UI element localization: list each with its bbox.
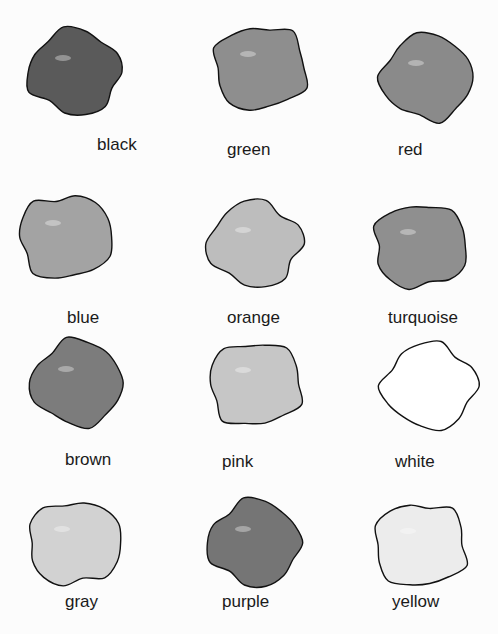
blob-highlight (55, 55, 71, 61)
paint-blob-brown (29, 337, 123, 429)
swatch-red (377, 32, 473, 123)
blob-highlight (410, 369, 426, 375)
blob-highlight (240, 51, 256, 57)
paint-blob-gray (30, 503, 121, 586)
swatch-blue (19, 196, 112, 278)
paint-blob-black (27, 26, 122, 115)
blob-highlight (235, 227, 251, 233)
blob-highlight (235, 367, 251, 373)
blob-highlight (400, 229, 416, 235)
paint-blob-orange (206, 199, 305, 287)
paint-blob-pink (210, 345, 302, 424)
swatch-purple (207, 497, 303, 587)
swatch-label-blue: blue (67, 308, 99, 328)
paint-blob-yellow (375, 505, 468, 585)
paint-blob-purple (207, 497, 303, 587)
swatch-pink (210, 345, 302, 424)
swatch-label-black: black (97, 135, 137, 155)
swatch-brown (29, 337, 123, 429)
swatch-label-red: red (398, 140, 423, 160)
blob-highlight (54, 526, 70, 532)
paint-blob-red (377, 32, 473, 123)
blob-highlight (45, 220, 61, 226)
paint-blob-green (213, 28, 308, 110)
blob-highlight (235, 526, 251, 532)
swatch-orange (206, 199, 305, 287)
swatch-label-yellow: yellow (392, 592, 439, 612)
swatch-gray (30, 503, 121, 586)
paint-blob-white (378, 341, 479, 431)
swatch-black (27, 26, 122, 115)
swatch-label-orange: orange (227, 308, 280, 328)
swatch-label-white: white (395, 452, 435, 472)
swatch-turquoise (373, 207, 466, 290)
swatch-green (213, 28, 308, 110)
swatch-label-purple: purple (222, 592, 269, 612)
blob-highlight (408, 60, 424, 66)
swatch-label-pink: pink (222, 452, 253, 472)
paint-blob-turquoise (373, 207, 466, 290)
swatch-yellow (375, 505, 468, 585)
swatch-label-brown: brown (65, 450, 111, 470)
paint-blob-blue (19, 196, 112, 278)
swatch-label-turquoise: turquoise (388, 308, 458, 328)
swatch-white (378, 341, 479, 431)
swatch-label-gray: gray (65, 592, 98, 612)
swatch-label-green: green (227, 140, 270, 160)
blob-highlight (58, 366, 74, 372)
blob-highlight (400, 528, 416, 534)
